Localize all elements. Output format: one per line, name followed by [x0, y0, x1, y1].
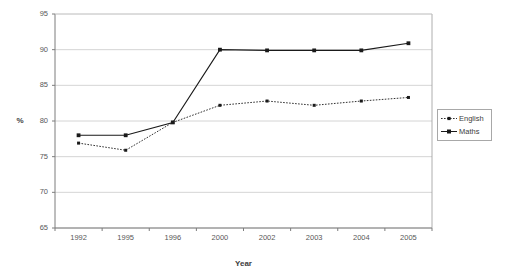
data-point[interactable] [359, 48, 363, 52]
y-tick-label: 75 [28, 153, 48, 161]
legend-swatch-english [441, 114, 457, 123]
x-tick-label: 2005 [385, 234, 431, 242]
legend-item-english[interactable]: English [441, 113, 484, 124]
y-tick-label: 70 [28, 188, 48, 196]
data-point[interactable] [171, 121, 175, 125]
data-point[interactable] [313, 104, 316, 107]
data-point[interactable] [266, 100, 269, 103]
y-tick-label: 85 [28, 81, 48, 89]
data-point[interactable] [124, 133, 128, 137]
legend-item-maths[interactable]: Maths [441, 126, 479, 137]
x-tick-label: 2000 [197, 234, 243, 242]
line-chart: % 95908580757065 19921995199620002002200… [0, 0, 505, 279]
data-point[interactable] [407, 41, 411, 45]
y-tick-label: 80 [28, 117, 48, 125]
x-tick-label: 1992 [56, 234, 102, 242]
x-tick-label: 1995 [103, 234, 149, 242]
series-line-english [79, 97, 409, 150]
series-line-maths [79, 43, 409, 135]
legend: English Maths [437, 109, 492, 141]
series-english [77, 96, 410, 152]
data-point[interactable] [218, 104, 221, 107]
data-point[interactable] [218, 48, 222, 52]
data-point[interactable] [124, 149, 127, 152]
data-point[interactable] [77, 142, 80, 145]
data-point[interactable] [265, 48, 269, 52]
x-tick-label: 2002 [244, 234, 290, 242]
x-tick-label: 2004 [338, 234, 384, 242]
series-maths [77, 41, 411, 137]
data-point[interactable] [312, 48, 316, 52]
gridline-group [55, 14, 432, 228]
y-tick-label: 90 [28, 46, 48, 54]
legend-label-english: English [459, 114, 484, 123]
y-tick-label: 65 [28, 224, 48, 232]
data-point[interactable] [77, 133, 81, 137]
data-point[interactable] [407, 96, 410, 99]
legend-label-maths: Maths [459, 127, 479, 136]
x-axis-title: Year [55, 259, 432, 268]
x-tick-label: 1996 [150, 234, 196, 242]
data-point[interactable] [360, 100, 363, 103]
legend-swatch-maths [441, 127, 457, 136]
x-tick-label: 2003 [291, 234, 337, 242]
y-tick-label: 95 [28, 10, 48, 18]
